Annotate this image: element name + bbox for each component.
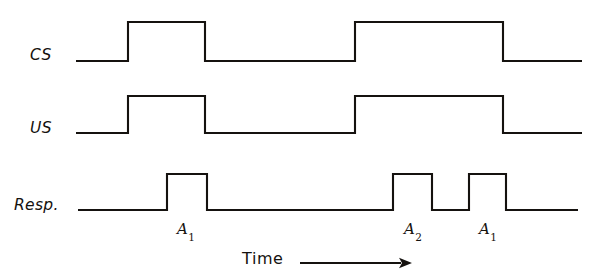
annotation-letter: A [177,220,188,238]
response-annotation-a1-first: A1 [177,222,195,237]
annotation-subscript: 1 [188,231,195,243]
annotation-subscript: 1 [490,231,497,243]
response-annotation-a1-second: A1 [479,222,497,237]
row-label-cs: CS [30,48,52,64]
response-annotation-a2: A2 [404,222,422,237]
waveform-canvas [0,0,602,277]
row-label-us: US [30,121,52,137]
cs-waveform-path [76,22,582,61]
annotation-letter: A [404,220,415,238]
us-waveform-path [76,96,582,133]
resp-waveform-path [78,174,578,210]
time-axis-label: Time [242,251,284,267]
timing-diagram-figure: CS US Resp. A1 A2 A1 Time [0,0,602,277]
annotation-subscript: 2 [415,231,422,243]
row-label-resp: Resp. [14,198,59,214]
annotation-letter: A [479,220,490,238]
